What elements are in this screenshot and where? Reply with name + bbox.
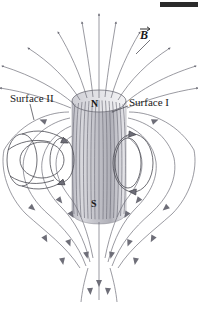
label-surface-1: Surface I [129, 96, 169, 108]
label-pole-north: N [91, 98, 98, 109]
surface-2-shape[interactable] [7, 131, 74, 189]
label-field-vector: B [140, 28, 148, 43]
magnetic-field-diagram [0, 0, 198, 314]
label-surface-2: Surface II [10, 92, 54, 104]
label-pole-south: S [91, 198, 97, 209]
vector-arrow-overbar [140, 25, 151, 31]
